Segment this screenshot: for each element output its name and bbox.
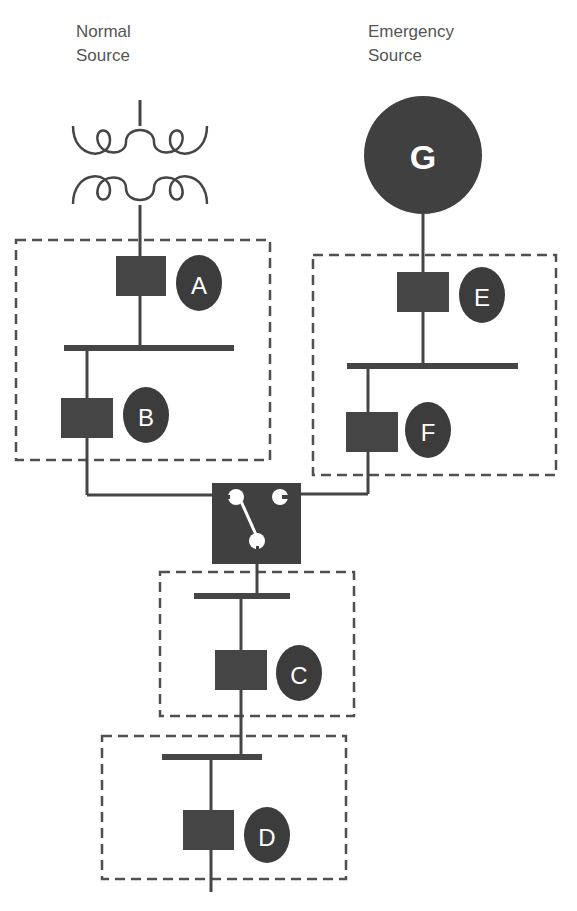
breaker-c [215, 650, 267, 690]
one-line-diagram: A B G E F C D [0, 0, 577, 911]
breaker-d [183, 810, 234, 850]
label-a: A [191, 272, 207, 299]
label-b: B [138, 404, 154, 431]
transfer-switch-icon [212, 483, 301, 564]
breaker-a [116, 256, 166, 296]
label-e: E [474, 284, 490, 311]
label-f: F [421, 419, 436, 446]
breaker-b [61, 398, 113, 438]
transformer-icon [73, 100, 207, 262]
label-c: C [290, 662, 307, 689]
label-d: D [258, 824, 275, 851]
breaker-f [346, 412, 398, 452]
svg-text:G: G [410, 138, 436, 176]
breaker-e [397, 272, 449, 312]
generator-icon: G [364, 96, 482, 214]
